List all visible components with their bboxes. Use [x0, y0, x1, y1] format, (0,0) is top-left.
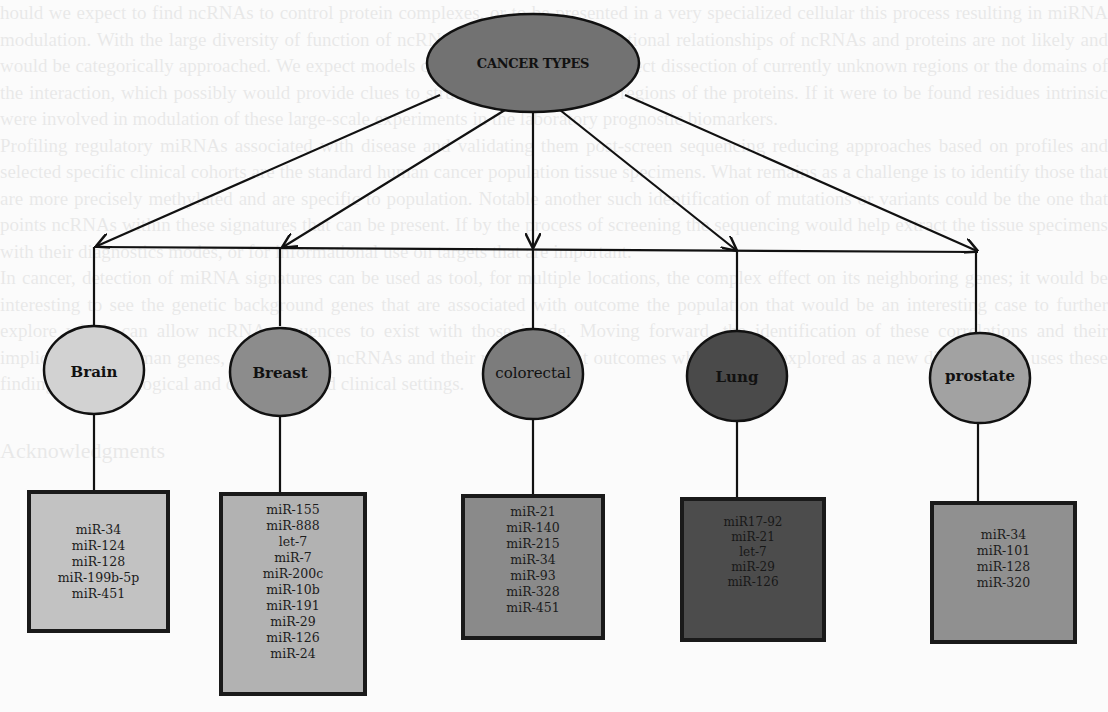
mirna-item: miR-888 [266, 518, 319, 534]
mirna-item: miR-21 [731, 530, 775, 545]
mirna-item: let-7 [279, 534, 308, 550]
mirna-item: miR-21 [510, 504, 555, 520]
mirna-item: miR-34 [510, 552, 555, 568]
category-label-breast: Breast [252, 364, 307, 382]
mirna-item: miR-320 [977, 575, 1030, 591]
category-label-colorectal: colorectal [495, 364, 570, 382]
mirna-item: miR-200c [263, 566, 323, 582]
mirna-item: miR-215 [506, 536, 559, 552]
mirna-item: miR-140 [506, 520, 559, 536]
mirna-item: miR-191 [266, 598, 319, 614]
mirna-box-lung: miR17-92 miR-21 let-7 miR-29 miR-126 [680, 497, 826, 642]
arrow-to-prostate [625, 95, 977, 251]
branch-bar [94, 247, 978, 252]
mirna-item: miR-126 [266, 630, 319, 646]
mirna-item: miR-124 [72, 538, 125, 554]
category-label-lung: Lung [716, 368, 759, 386]
mirna-box-brain: miR-34 miR-124 miR-128 miR-199b-5p miR-4… [27, 490, 170, 633]
mirna-box-prostate: miR-34 miR-101 miR-128 miR-320 [930, 501, 1077, 644]
mirna-item: miR-128 [977, 559, 1030, 575]
mirna-item: let-7 [739, 545, 766, 560]
mirna-item: miR-29 [270, 614, 315, 630]
arrow-to-brain [97, 95, 440, 246]
arrow-to-lung [560, 110, 736, 250]
mirna-box-breast: miR-155 miR-888 let-7 miR-7 miR-200c miR… [219, 492, 367, 696]
mirna-item: miR-10b [266, 582, 319, 598]
mirna-item: miR-34 [76, 522, 121, 538]
mirna-item: miR-128 [72, 554, 125, 570]
mirna-item: miR17-92 [724, 515, 783, 530]
mirna-item: miR-34 [981, 527, 1026, 543]
mirna-item: miR-93 [510, 568, 555, 584]
mirna-item: miR-199b-5p [58, 570, 140, 586]
mirna-item: miR-101 [977, 543, 1030, 559]
mirna-box-colorectal: miR-21 miR-140 miR-215 miR-34 miR-93 miR… [461, 494, 605, 640]
mirna-item: miR-126 [727, 575, 778, 590]
mirna-item: miR-451 [72, 586, 125, 602]
root-node-label: CANCER TYPES [477, 56, 589, 71]
mirna-item: miR-24 [270, 646, 315, 662]
mirna-item: miR-155 [266, 502, 319, 518]
mirna-item: miR-328 [506, 584, 559, 600]
category-label-brain: Brain [71, 363, 118, 381]
category-label-prostate: prostate [945, 367, 1015, 385]
arrow-to-breast [283, 110, 505, 247]
mirna-item: miR-451 [506, 600, 559, 616]
mirna-item: miR-29 [731, 560, 775, 575]
mirna-item: miR-7 [274, 550, 311, 566]
